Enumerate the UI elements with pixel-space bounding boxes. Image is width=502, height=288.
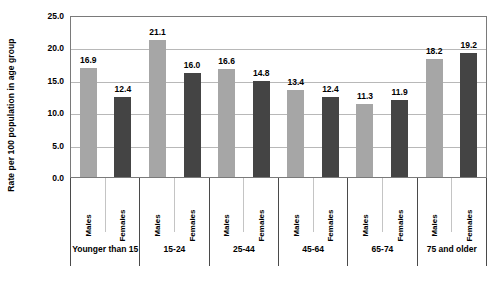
bar-group: 13.412.4	[279, 17, 348, 177]
age-group-label: 15-24	[140, 232, 209, 266]
sex-label-males: Males	[71, 178, 106, 232]
y-axis-title: Rate per 100 population in age group	[0, 0, 22, 230]
bar-value-label: 16.9	[80, 55, 97, 65]
bar-slot: 11.9	[382, 17, 417, 177]
sex-label-row: MalesFemalesMalesFemalesMalesFemalesMale…	[70, 178, 487, 232]
bar-group: 16.912.4	[71, 17, 140, 177]
bar-slot: 21.1	[140, 17, 175, 177]
sex-label-females: Females	[452, 178, 486, 232]
bar-value-label: 16.6	[218, 56, 235, 66]
sex-label-males: Males	[140, 178, 175, 232]
y-axis-tick-label: 5.0	[52, 141, 64, 151]
sex-label-group: MalesFemales	[279, 178, 348, 232]
y-axis-tick-labels: 25.020.015.010.05.00.0	[22, 16, 68, 178]
sex-label-group: MalesFemales	[140, 178, 209, 232]
bar-males[interactable]: 21.1	[149, 40, 166, 177]
bar-group: 11.311.9	[348, 17, 417, 177]
sex-label-group: MalesFemales	[348, 178, 417, 232]
age-group-label: Younger than 15	[71, 232, 140, 266]
age-group-label: 65-74	[348, 232, 417, 266]
bar-males[interactable]: 11.3	[356, 104, 373, 177]
sex-label-males: Males	[418, 178, 453, 232]
bar-slot: 12.4	[313, 17, 348, 177]
sex-label-males: Males	[210, 178, 245, 232]
bar-value-label: 13.4	[288, 77, 305, 87]
sex-label-females: Females	[314, 178, 348, 232]
sex-label-group: MalesFemales	[418, 178, 486, 232]
sex-label-males: Males	[348, 178, 383, 232]
sex-label-females: Females	[175, 178, 209, 232]
bar-value-label: 11.3	[357, 91, 373, 101]
bar-value-label: 14.8	[253, 68, 270, 78]
y-axis-tick-label: 10.0	[47, 108, 64, 118]
bar-group: 18.219.2	[417, 17, 486, 177]
y-axis-title-text: Rate per 100 population in age group	[6, 38, 16, 191]
bar-slot: 18.2	[417, 17, 452, 177]
bar-females[interactable]: 12.4	[114, 97, 131, 177]
y-axis-tick-label: 15.0	[47, 76, 64, 86]
age-group-label-row: Younger than 1515-2425-4445-6465-7475 an…	[70, 232, 487, 266]
sex-label-females: Females	[383, 178, 417, 232]
bar-value-label: 12.4	[115, 84, 132, 94]
bar-value-label: 12.4	[322, 84, 339, 94]
bar-slot: 19.2	[451, 17, 486, 177]
sex-label-group: MalesFemales	[71, 178, 140, 232]
bar-males[interactable]: 16.6	[218, 69, 235, 177]
bar-females[interactable]: 16.0	[184, 73, 201, 177]
bar-slot: 16.0	[175, 17, 210, 177]
bar-males[interactable]: 13.4	[287, 90, 304, 177]
bar-slot: 13.4	[279, 17, 314, 177]
bar-value-label: 19.2	[460, 40, 477, 50]
bar-males[interactable]: 18.2	[426, 59, 443, 177]
bar-value-label: 11.9	[392, 87, 408, 97]
bar-males[interactable]: 16.9	[80, 68, 97, 178]
bar-slot: 11.3	[348, 17, 383, 177]
bar-group: 16.614.8	[209, 17, 278, 177]
sex-label-males: Males	[279, 178, 314, 232]
bar-value-label: 21.1	[149, 27, 166, 37]
age-group-label: 45-64	[279, 232, 348, 266]
bar-chart: Rate per 100 population in age group 25.…	[0, 0, 502, 288]
bar-females[interactable]: 19.2	[460, 53, 477, 177]
y-axis-tick-label: 20.0	[47, 43, 64, 53]
bar-slot: 16.9	[71, 17, 106, 177]
age-group-label: 25-44	[210, 232, 279, 266]
bar-slot: 14.8	[244, 17, 279, 177]
plot-area: 16.912.421.116.016.614.813.412.411.311.9…	[70, 16, 487, 178]
bar-group: 21.116.0	[140, 17, 209, 177]
bar-value-label: 16.0	[184, 60, 201, 70]
sex-label-group: MalesFemales	[210, 178, 279, 232]
sex-label-females: Females	[244, 178, 278, 232]
bars-layer: 16.912.421.116.016.614.813.412.411.311.9…	[71, 17, 486, 177]
bar-females[interactable]: 11.9	[391, 100, 408, 177]
bar-females[interactable]: 14.8	[253, 81, 270, 177]
age-group-label: 75 and older	[418, 232, 486, 266]
y-axis-tick-label: 0.0	[52, 173, 64, 183]
bar-females[interactable]: 12.4	[322, 97, 339, 177]
bar-value-label: 18.2	[426, 46, 443, 56]
sex-label-females: Females	[106, 178, 140, 232]
bar-slot: 12.4	[106, 17, 141, 177]
bar-slot: 16.6	[209, 17, 244, 177]
y-axis-tick-label: 25.0	[47, 11, 64, 21]
